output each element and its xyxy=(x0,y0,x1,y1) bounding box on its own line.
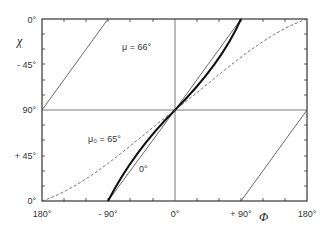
chart: μ = 66° μ₀ = 65° 0° χ Φ 0° - 45° 90° + 4… xyxy=(0,0,328,236)
y-label-plus45: + 45° xyxy=(15,151,37,161)
chi-axis-title: χ xyxy=(16,34,23,48)
phi-axis-title: Φ xyxy=(259,210,268,224)
mu-annotation: μ = 66° xyxy=(122,42,151,52)
y-label-minus45: - 45° xyxy=(17,60,37,70)
y-label-0-bottom: 0° xyxy=(27,196,36,206)
x-label-minus90: - 90° xyxy=(98,209,118,219)
y-label-0-top: 0° xyxy=(27,15,36,25)
y-label-90: 90° xyxy=(22,105,36,115)
mu0-label: μ₀ = 65° xyxy=(88,134,121,144)
x-label-plus90: + 90° xyxy=(230,209,252,219)
x-label-0: 0° xyxy=(171,209,180,219)
x-label-180-right: 180° xyxy=(298,209,317,219)
x-label-180-left: 180° xyxy=(33,209,52,219)
zero-deg-label: 0° xyxy=(139,164,148,174)
